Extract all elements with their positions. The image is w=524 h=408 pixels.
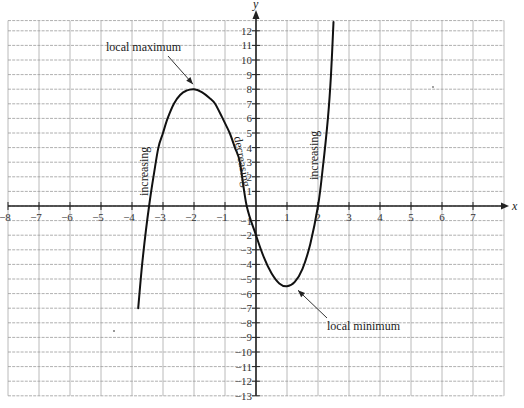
y-tick-label: 8 — [247, 83, 253, 95]
x-tick-label: 7 — [470, 211, 476, 223]
y-tick-label: 9 — [247, 69, 253, 81]
x-tick-label: −3 — [154, 211, 166, 223]
increasing-label-right: increasing — [307, 131, 321, 180]
y-tick-label: −10 — [235, 346, 253, 358]
y-tick-label: −5 — [240, 273, 252, 285]
x-tick-label: −7 — [30, 211, 42, 223]
x-tick-label: 3 — [346, 211, 352, 223]
increasing-label-left: increasing — [137, 147, 151, 196]
y-tick-label: 7 — [247, 98, 253, 110]
ticks: −8−7−6−5−4−3−2−11234567121110987654321−1… — [0, 25, 476, 402]
scan-speck — [432, 86, 434, 88]
x-axis-arrowhead — [501, 203, 509, 210]
x-tick-label: −6 — [61, 211, 73, 223]
x-tick-label: 5 — [408, 211, 414, 223]
y-tick-label: −6 — [240, 288, 252, 300]
y-tick-label: 12 — [241, 25, 252, 37]
x-tick-label: −1 — [216, 211, 228, 223]
y-tick-label: 11 — [241, 39, 252, 51]
y-tick-label: 10 — [241, 54, 253, 66]
axes: x y — [8, 0, 518, 396]
y-tick-label: −4 — [240, 258, 252, 270]
y-tick-label: 6 — [247, 112, 253, 124]
x-tick-label: −2 — [185, 211, 197, 223]
function-graph: x y −8−7−6−5−4−3−2−112345671211109876543… — [0, 0, 524, 408]
y-tick-label: 5 — [247, 127, 253, 139]
x-tick-label: −8 — [0, 211, 11, 223]
y-tick-label: −11 — [235, 361, 252, 373]
local-minimum-label: local minimum — [327, 319, 401, 333]
y-tick-label: 1 — [247, 185, 253, 197]
x-tick-label: 6 — [439, 211, 445, 223]
y-tick-label: −13 — [235, 390, 253, 402]
annotations: local maximum local minimum increasing d… — [106, 40, 401, 333]
y-tick-label: −8 — [240, 317, 252, 329]
y-axis-label: y — [252, 0, 259, 11]
local-maximum-label: local maximum — [106, 40, 182, 54]
y-tick-label: −3 — [240, 244, 252, 256]
y-tick-label: −12 — [235, 375, 252, 387]
x-axis-label: x — [511, 199, 518, 213]
x-tick-label: −5 — [92, 211, 104, 223]
function-curve — [138, 22, 333, 308]
x-tick-label: −4 — [123, 211, 135, 223]
x-tick-label: 4 — [377, 211, 383, 223]
y-tick-label: −9 — [240, 331, 252, 343]
y-axis-arrowhead — [253, 10, 260, 19]
scan-speck — [113, 330, 115, 332]
x-tick-label: 1 — [284, 211, 290, 223]
y-tick-label: −2 — [240, 229, 252, 241]
y-tick-label: −7 — [240, 302, 252, 314]
